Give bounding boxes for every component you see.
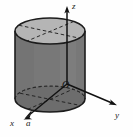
x-axis-label: x bbox=[9, 118, 14, 128]
origin-label: O bbox=[62, 79, 69, 90]
cylinder-diagram-figure: z y x a O bbox=[0, 0, 133, 137]
y-axis-label: y bbox=[114, 110, 119, 120]
z-axis-label: z bbox=[71, 1, 76, 11]
diagram-canvas: z y x a O bbox=[0, 0, 133, 137]
radius-mark-label: a bbox=[26, 118, 31, 128]
